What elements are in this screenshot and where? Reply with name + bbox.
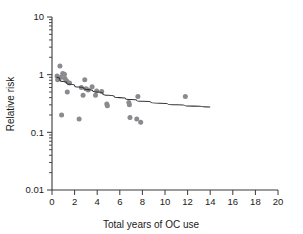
y-axis-title: Relative risk [5,76,16,131]
x-tick-label: 14 [205,196,216,207]
x-tick-label: 12 [182,196,193,207]
y-tick-label: 1 [39,69,44,80]
x-tick-label: 8 [140,196,145,207]
scatter-point [127,115,132,120]
scatter-point [82,77,87,82]
scatter-point [81,93,86,98]
relative-risk-scatter-chart: 0.010.1110 02468101214161820 Total years… [0,0,303,234]
scatter-point [57,63,62,68]
scatter-point [59,112,64,117]
x-axis-tick-labels: 02468101214161820 [49,196,283,207]
y-tick-label: 10 [33,11,44,22]
scatter-point [93,93,98,98]
scatter-point [62,72,67,77]
chart-svg: 0.010.1110 02468101214161820 Total years… [0,0,303,234]
scatter-point [99,89,104,94]
y-axis: 0.010.1110 [26,11,53,195]
x-tick-label: 6 [117,196,122,207]
y-axis-ticks [47,17,52,190]
scatter-point [90,84,95,89]
scatter-point [94,89,99,94]
scatter-point [134,117,139,122]
x-tick-label: 2 [72,196,77,207]
x-axis-ticks [52,190,278,195]
scatter-point [138,120,143,125]
scatter-point [183,94,188,99]
scatter-points-group [55,63,188,124]
scatter-point [135,94,140,99]
y-tick-label: 0.01 [26,184,45,195]
scatter-point [105,103,110,108]
fitted-trend-line [57,77,211,107]
x-tick-label: 10 [160,196,171,207]
scatter-point [65,90,70,95]
scatter-point [77,117,82,122]
scatter-point [127,102,132,107]
y-axis-tick-labels: 0.010.1110 [26,11,45,195]
y-tick-label: 0.1 [31,127,44,138]
x-axis-title: Total years of OC use [103,219,200,230]
x-tick-label: 4 [95,196,100,207]
x-axis: 02468101214161820 [49,190,283,207]
x-tick-label: 16 [228,196,239,207]
x-tick-label: 20 [273,196,284,207]
x-tick-label: 18 [250,196,261,207]
x-tick-label: 0 [49,196,54,207]
